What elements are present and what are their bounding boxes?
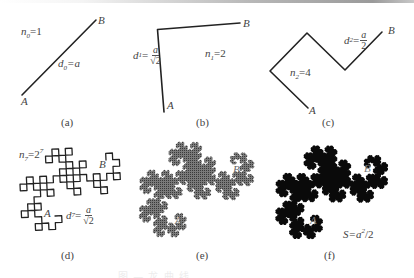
panel-d-point-a: A — [44, 208, 51, 219]
panel-b-n-label: n1=2 — [205, 48, 226, 62]
panel-c-point-a: A — [309, 105, 316, 116]
panel-c-caption: (c) — [322, 117, 334, 128]
panel-b-point-a: A — [167, 100, 174, 111]
panel-c-n-label: n2=4 — [290, 67, 311, 81]
panel-b-point-b: B — [243, 18, 250, 29]
figure-caption: 图 — 龙 曲 线 — [118, 268, 278, 278]
panel-b-d-label: d1=a√2 — [133, 45, 162, 66]
panel-d-d-label: d7=a√2 — [66, 205, 95, 226]
panel-a-point-b: B — [98, 15, 105, 26]
panel-b-caption: (b) — [196, 117, 209, 128]
panel-e-caption: (e) — [196, 250, 208, 261]
panel-f-point-b: B — [364, 163, 371, 174]
panel-c-d-label: d2=a2 — [344, 30, 367, 51]
panel-d-point-b: B — [99, 159, 106, 170]
panel-f-caption: (f) — [324, 250, 335, 261]
panel-f-curve — [276, 146, 387, 238]
panel-f-area-label: S=a2/2 — [343, 228, 374, 240]
panel-a-d-label: d0=a — [58, 58, 80, 72]
panel-e-point-b: B — [233, 164, 240, 175]
panel-e-point-a: A — [175, 215, 182, 226]
panel-d-caption: (d) — [61, 250, 74, 261]
panel-e-curve — [140, 142, 254, 236]
panel-a-caption: (a) — [61, 117, 73, 128]
panel-a-point-a: A — [21, 96, 28, 107]
panel-c-point-b: B — [388, 25, 395, 36]
panel-a-n-label: n0=1 — [21, 26, 42, 40]
panel-f-point-a: A — [310, 215, 317, 226]
panel-d-n-label: n7=27 — [19, 148, 43, 163]
